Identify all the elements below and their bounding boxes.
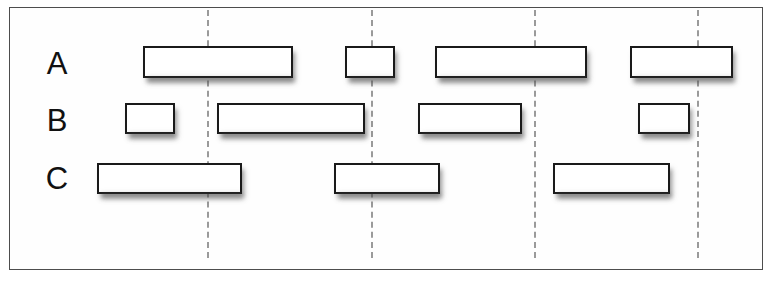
plot-area: ABC — [0, 0, 770, 297]
row-label-b: B — [40, 105, 74, 136]
bar-a-1 — [143, 46, 293, 78]
bar-c-2 — [334, 163, 440, 194]
bar-b-2 — [217, 103, 365, 134]
bar-b-4 — [638, 103, 690, 134]
row-label-c: C — [40, 163, 74, 194]
row-label-a: A — [40, 48, 74, 79]
bar-c-3 — [553, 163, 670, 194]
bar-a-2 — [345, 46, 395, 78]
bar-b-1 — [125, 103, 175, 134]
bar-b-3 — [418, 103, 522, 134]
bar-a-4 — [630, 46, 733, 78]
bar-c-1 — [97, 163, 242, 194]
bar-a-3 — [435, 46, 587, 78]
timeline-diagram: ABC — [0, 0, 770, 297]
